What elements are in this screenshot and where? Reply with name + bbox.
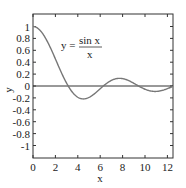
x-axis-label: x (97, 172, 103, 184)
y-axis-label: y (2, 87, 14, 93)
y-tick-label: -0.2 (13, 92, 30, 104)
y-tick-label: 0 (25, 80, 31, 92)
x-tick-label: 8 (120, 161, 126, 173)
equation-denominator: x (87, 48, 93, 60)
equation-numerator: sin x (79, 34, 101, 46)
y-tick-label: -0.8 (13, 128, 31, 140)
x-tick-label: 0 (30, 161, 36, 173)
x-tick-label: 2 (53, 161, 59, 173)
y-tick-label: 1 (25, 21, 31, 33)
y-tick-label: 0.4 (16, 56, 30, 68)
x-ticks: 024681012 (30, 14, 173, 173)
equation-annotation: y = sin x x (61, 34, 102, 60)
y-tick-label: 0.8 (16, 32, 30, 44)
x-tick-label: 10 (140, 161, 152, 173)
y-tick-label: -1 (21, 140, 30, 152)
x-tick-label: 4 (75, 161, 81, 173)
y-tick-label: 0.6 (16, 44, 30, 56)
x-tick-label: 12 (162, 161, 173, 173)
y-tick-label: 0.2 (16, 68, 30, 80)
equation-lhs: y = (61, 39, 75, 51)
y-tick-label: -0.6 (13, 116, 31, 128)
sinc-curve (33, 27, 173, 99)
y-tick-label: -0.4 (13, 104, 31, 116)
sinc-chart: 10.80.60.40.20-0.2-0.4-0.6-0.8-1 0246810… (0, 0, 186, 188)
